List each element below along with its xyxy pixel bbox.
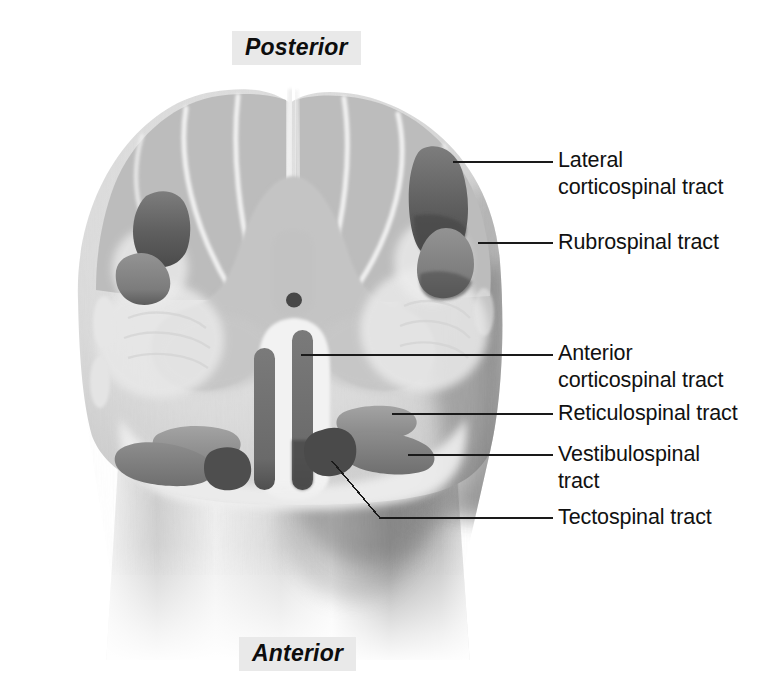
callout-label-anterior-corticospinal-tract: Anterior corticospinal tract xyxy=(558,340,723,394)
tectospinal-tract-right xyxy=(304,428,356,477)
callout-label-vestibulospinal-tract: Vestibulospinal tract xyxy=(558,441,700,495)
anterior-corticospinal-tract-left xyxy=(254,348,275,490)
central-canal xyxy=(286,293,302,308)
spinal-cord-figure: Posterior Anterior Lateral corticospinal… xyxy=(0,0,766,683)
orientation-label-anterior: Anterior xyxy=(239,637,356,671)
orientation-label-posterior: Posterior xyxy=(232,31,361,65)
tectospinal-tract-left xyxy=(204,447,251,490)
callout-label-reticulospinal-tract: Reticulospinal tract xyxy=(558,400,738,427)
callout-label-tectospinal-tract: Tectospinal tract xyxy=(558,504,712,531)
callout-label-rubrospinal-tract: Rubrospinal tract xyxy=(558,229,719,256)
callout-label-lateral-corticospinal-tract: Lateral corticospinal tract xyxy=(558,147,723,201)
